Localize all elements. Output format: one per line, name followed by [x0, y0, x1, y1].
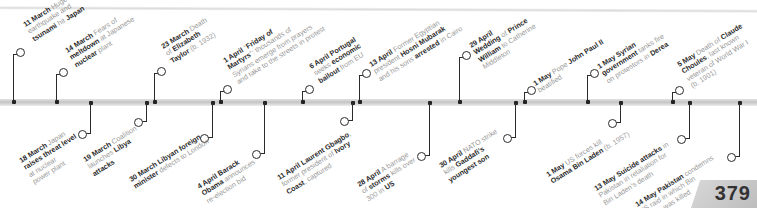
marker-stem [672, 92, 673, 101]
marker-stem [620, 102, 621, 122]
event-label: 23 March Deathof ElizabethTaylor (b. 193… [160, 16, 218, 65]
marker-stem [146, 102, 147, 121]
marker-ring-icon [305, 85, 314, 94]
marker-ring-icon [59, 68, 68, 77]
marker-ring-icon [157, 67, 166, 76]
event-label: 4 April BarackObama announcesre-election… [196, 151, 262, 205]
marker-stem [515, 102, 516, 137]
marker-stem [429, 102, 430, 155]
marker-ring-icon [527, 86, 536, 95]
event-label: 1 May Syriangovernment tanks fireon prot… [596, 26, 671, 86]
marker-ring-icon [252, 150, 261, 159]
event-label: 30 April NATO strikekills Gaddafi’syoung… [438, 128, 508, 185]
marker-stem [739, 102, 740, 156]
marker-ring-icon [340, 117, 349, 126]
page-number: 379 [715, 182, 751, 205]
marker-stem [459, 57, 460, 101]
top-divider [0, 6, 757, 12]
marker-ring-icon [677, 135, 686, 144]
marker-stem [90, 102, 91, 133]
marker-ring-icon [590, 69, 599, 78]
marker-ring-icon [727, 153, 736, 162]
marker-stem [13, 54, 14, 101]
event-label: 28 April A barrageof storms kills over30… [356, 149, 422, 203]
marker-stem [302, 91, 303, 101]
marker-stem [154, 73, 155, 101]
marker-stem [359, 75, 360, 101]
marker-ring-icon [16, 48, 25, 57]
marker-ring-icon [417, 152, 426, 161]
marker-stem [689, 102, 690, 138]
marker-ring-icon [462, 51, 471, 60]
label-line: 1 May Pope John Paul II [532, 38, 605, 88]
marker-stem [524, 92, 525, 101]
marker-stem [220, 91, 221, 101]
event-label: 11 April Laurent Gbagbo,former president… [276, 130, 362, 197]
marker-stem [212, 102, 213, 137]
event-label: 5 May Death of ClaudeChoules, last known… [676, 22, 757, 90]
marker-ring-icon [362, 69, 371, 78]
marker-stem [264, 102, 265, 153]
event-label: 18 March Japanraises threat levelat nucl… [18, 126, 87, 187]
marker-ring-icon [675, 86, 684, 95]
event-label: 29 AprilWedding of PrinceWilliam to Cath… [468, 8, 542, 72]
marker-ring-icon [134, 118, 143, 127]
marker-ring-icon [503, 134, 512, 143]
marker-stem [352, 102, 353, 120]
marker-stem [56, 74, 57, 101]
event-label: 1 April “Friday ofMartyrs”: thousands of… [222, 4, 327, 87]
label-line: president Hosni Mubarak [372, 17, 459, 76]
marker-ring-icon [223, 85, 232, 94]
timeline-axis [0, 99, 757, 106]
marker-stem [587, 75, 588, 101]
marker-ring-icon [78, 130, 87, 139]
event-label: 13 April Former Egyptianpresident Hosni … [368, 10, 464, 83]
